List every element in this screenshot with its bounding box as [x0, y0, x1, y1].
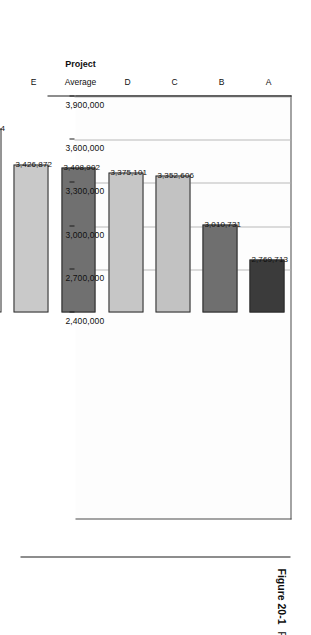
y-axis-tick — [69, 225, 74, 226]
bar-value-label: 3,010,731 — [204, 219, 241, 228]
y-axis-tick — [69, 95, 74, 96]
bar-value-label: 3,408,902 — [63, 162, 100, 171]
bar-d — [108, 172, 143, 312]
category-label-a: A — [245, 76, 291, 86]
category-axis-line — [47, 95, 291, 96]
category-label-c: C — [151, 76, 197, 86]
figure-page: Net present value ($) 3,900,0003,600,000… — [0, 0, 311, 635]
bar-value-label: 3,426,872 — [15, 159, 52, 168]
y-axis-tick — [69, 268, 74, 269]
figure-caption-text: Pair programming NPV — [275, 631, 287, 635]
category-label-b: B — [198, 76, 244, 86]
bar-value-label: 3,375,101 — [110, 167, 147, 176]
bar-c — [155, 175, 190, 312]
caption-divider — [20, 556, 290, 557]
bar-b — [202, 224, 237, 312]
figure-container: Net present value ($) 3,900,0003,600,000… — [0, 0, 311, 635]
bar-f — [0, 128, 1, 312]
chart-canvas: Net present value ($) 3,900,0003,600,000… — [0, 0, 311, 566]
rotated-figure-stage: Net present value ($) 3,900,0003,600,000… — [0, 0, 311, 635]
gridline — [74, 139, 290, 140]
bar-e — [13, 164, 48, 312]
y-axis-tick — [69, 181, 74, 182]
category-label-average: Average — [57, 76, 103, 86]
category-label-d: D — [104, 76, 150, 86]
figure-number: Figure 20-1 — [275, 568, 287, 624]
y-axis-tick — [69, 311, 74, 312]
bar-value-label: 3,352,606 — [157, 170, 194, 179]
plot-frame — [75, 95, 291, 519]
y-axis-tick — [69, 138, 74, 139]
x-axis-title: Project — [50, 58, 110, 68]
bar-value-label: 2,769,713 — [251, 254, 288, 263]
bar-a — [249, 259, 284, 312]
category-label-e: E — [10, 76, 56, 86]
bar-value-label: 3,680,914 — [0, 123, 5, 132]
category-label-f: F — [0, 76, 9, 86]
figure-caption: Figure 20-1Pair programming NPV — [275, 568, 287, 635]
